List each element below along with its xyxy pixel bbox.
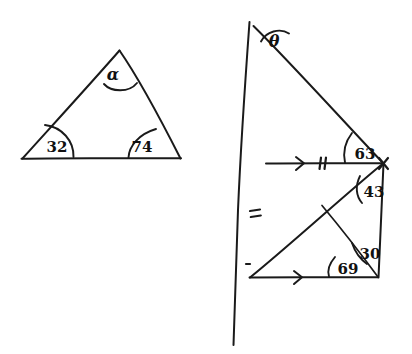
- apex-angle-arc: [104, 83, 137, 90]
- geometry-diagram-canvas: α 32 74 θ 63: [0, 0, 412, 354]
- transversal-tick-marks: [250, 210, 261, 218]
- angle-30-label: 30: [360, 245, 381, 263]
- bottom-right-angle-label: 74: [132, 138, 153, 156]
- left-triangle-group: α 32 74: [22, 51, 182, 159]
- angle-43-label: 43: [364, 183, 385, 201]
- transversal-line: [234, 22, 250, 345]
- angle-69-arc: [328, 257, 335, 277]
- triangle-base: [22, 158, 182, 159]
- angle-43-arc: [357, 176, 362, 203]
- angle-63-label: 63: [355, 145, 376, 163]
- right-figure-group: θ 63 43 30 69: [234, 22, 389, 345]
- angle-69-label: 69: [338, 260, 359, 278]
- angle-63-arc: [344, 133, 352, 163]
- apex-angle-label: α: [107, 65, 119, 84]
- theta-angle-label: θ: [269, 32, 280, 51]
- bottom-left-angle-label: 32: [47, 138, 68, 156]
